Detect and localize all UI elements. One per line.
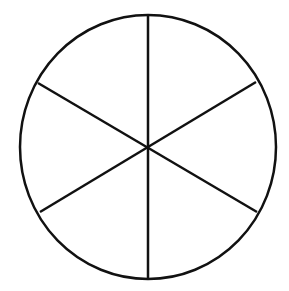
- sectored-circle-diagram: [0, 0, 289, 291]
